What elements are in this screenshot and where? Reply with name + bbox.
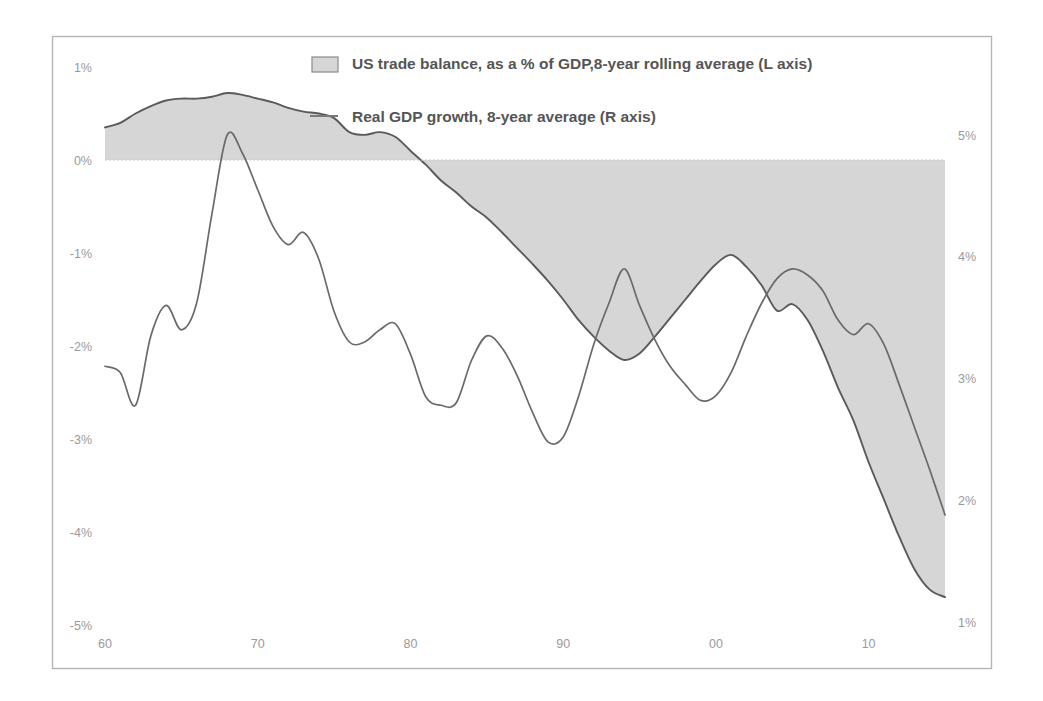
left-axis-tick-2: -1%: [70, 247, 92, 261]
legend-label-trade-balance: US trade balance, as a % of GDP,8-year r…: [352, 55, 812, 72]
legend-item-gdp-growth[interactable]: Real GDP growth, 8-year average (R axis): [310, 108, 656, 125]
left-axis-tick-1: 0%: [74, 154, 92, 168]
legend-label-gdp-growth: Real GDP growth, 8-year average (R axis): [352, 108, 656, 125]
left-axis-tick-3: -2%: [70, 340, 92, 354]
area-swatch-icon: [312, 57, 338, 72]
right-axis-tick-1: 4%: [958, 250, 976, 264]
x-axis-tick-1: 70: [251, 637, 265, 651]
left-axis-tick-0: 1%: [74, 61, 92, 75]
right-axis-tick-2: 3%: [958, 372, 976, 386]
x-axis-tick-5: 10: [862, 637, 876, 651]
left-axis-tick-6: -5%: [70, 619, 92, 633]
right-axis-tick-0: 5%: [958, 129, 976, 143]
right-axis-tick-3: 2%: [958, 494, 976, 508]
x-axis-tick-0: 60: [98, 637, 112, 651]
trade-balance-gdp-chart: 1%0%-1%-2%-3%-4%-5% 5%4%3%2%1% 607080900…: [0, 0, 1043, 701]
x-axis-tick-4: 00: [709, 637, 723, 651]
chart-container: 1%0%-1%-2%-3%-4%-5% 5%4%3%2%1% 607080900…: [0, 0, 1043, 701]
right-axis-tick-4: 1%: [958, 616, 976, 630]
left-axis-tick-5: -4%: [70, 526, 92, 540]
x-axis-tick-3: 90: [556, 637, 570, 651]
x-axis-tick-2: 80: [404, 637, 418, 651]
legend-item-trade-balance[interactable]: US trade balance, as a % of GDP,8-year r…: [312, 55, 812, 72]
left-axis-tick-4: -3%: [70, 433, 92, 447]
